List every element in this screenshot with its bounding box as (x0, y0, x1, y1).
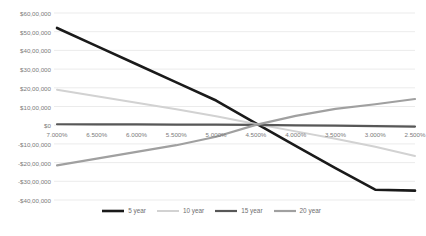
series-lines (57, 28, 415, 191)
y-axis-tick-label: -$10,00,000 (0, 140, 51, 147)
x-axis-tick-label: 7.000% (47, 131, 68, 138)
series-line-10-year (57, 90, 415, 156)
x-axis-tick-label: 5.000% (206, 131, 227, 138)
y-axis-tick-label: $50,00,000 (0, 28, 51, 35)
x-axis-tick-label: 6.000% (126, 131, 147, 138)
y-axis-tick-label: $10,00,000 (0, 103, 51, 110)
legend-item-15-year[interactable]: 15 year (215, 207, 262, 214)
legend-item-10-year[interactable]: 10 year (157, 207, 204, 214)
series-line-20-year (57, 99, 415, 165)
x-axis-tick-label: 3.500% (325, 131, 346, 138)
y-axis-tick-label: -$40,00,000 (0, 197, 51, 204)
x-axis-tick-label: 3.000% (365, 131, 386, 138)
legend-swatch-icon (274, 208, 296, 214)
legend-swatch-icon (215, 208, 237, 214)
x-axis-tick-label: 5.500% (166, 131, 187, 138)
y-axis-tick-label: -$20,00,000 (0, 159, 51, 166)
y-axis-tick-label: $0 (0, 122, 51, 129)
x-axis-tick-label: 2.500% (405, 131, 426, 138)
series-line-15-year (57, 124, 415, 126)
legend-label: 10 year (183, 207, 204, 214)
legend-label: 5 year (128, 207, 146, 214)
legend-swatch-icon (102, 208, 124, 214)
legend-label: 20 year (300, 207, 321, 214)
y-axis-tick-label: $20,00,000 (0, 84, 51, 91)
x-axis-tick-label: 4.000% (285, 131, 306, 138)
chart-legend: 5 year10 year15 year20 year (0, 207, 423, 214)
y-axis-tick-label: $30,00,000 (0, 66, 51, 73)
legend-item-20-year[interactable]: 20 year (274, 207, 321, 214)
x-axis-tick-label: 6.500% (86, 131, 107, 138)
series-line-5-year (57, 28, 415, 191)
legend-item-5-year[interactable]: 5 year (102, 207, 146, 214)
y-axis-tick-label: -$30,00,000 (0, 178, 51, 185)
x-axis-tick-label: 4.500% (245, 131, 266, 138)
y-axis-tick-label: $60,00,000 (0, 10, 51, 17)
y-axis-tick-label: $40,00,000 (0, 47, 51, 54)
legend-swatch-icon (157, 208, 179, 214)
legend-label: 15 year (241, 207, 262, 214)
